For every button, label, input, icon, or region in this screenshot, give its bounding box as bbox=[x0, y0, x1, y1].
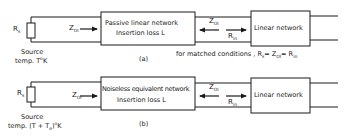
label-sub: OI bbox=[77, 95, 82, 100]
note-text: = R bbox=[281, 50, 293, 58]
input-resistance-label-a: Rin bbox=[228, 33, 237, 41]
output-impedance-label-b: ZOI bbox=[209, 84, 219, 92]
note-text: for matched conditions , R bbox=[176, 50, 262, 58]
passive-network-title: Passive linear network bbox=[105, 20, 178, 27]
figure-label-b: (b) bbox=[139, 121, 148, 128]
source-resistor-b bbox=[27, 87, 35, 102]
insertion-loss-label-b: Insertion loss L bbox=[117, 97, 166, 104]
linear-network-label-a: Linear network bbox=[254, 25, 303, 32]
label-sub: s bbox=[18, 29, 20, 34]
source-resistance-label-b: Rs bbox=[17, 90, 24, 98]
source-resistor-a bbox=[27, 23, 35, 38]
input-impedance-label-a: ZOI bbox=[69, 25, 79, 33]
source-resistance-label-a: Rs bbox=[13, 26, 20, 34]
noise-temperature-diagram: Rs Source temp. ToK ZOI Passive linear n… bbox=[0, 0, 344, 136]
label-sub: in bbox=[233, 102, 237, 107]
source-caption-a-line2: temp. ToK bbox=[15, 57, 47, 65]
label-sub: OI bbox=[214, 21, 219, 26]
label-sub: OI bbox=[214, 87, 219, 92]
label-sub: s bbox=[22, 93, 24, 98]
caption-unit: K bbox=[57, 122, 61, 130]
source-caption-b-line1: Source bbox=[21, 114, 43, 121]
caption-text: temp. T bbox=[15, 57, 40, 65]
note-text: = Z bbox=[264, 50, 276, 58]
noiseless-network-block bbox=[101, 77, 195, 110]
caption-text: temp. (T + T bbox=[8, 122, 49, 130]
label-sub: in bbox=[233, 36, 237, 41]
matched-conditions-note: for matched conditions , Rs= ZOI= Rin bbox=[176, 51, 297, 59]
input-resistance-label-b: Rin bbox=[228, 99, 237, 107]
source-caption-a-line1: Source bbox=[21, 49, 43, 56]
output-impedance-label-a: ZOI bbox=[209, 18, 219, 26]
figure-label-a: (a) bbox=[139, 56, 148, 63]
input-impedance-label-b: ZOI bbox=[72, 92, 82, 100]
note-sub: in bbox=[293, 54, 297, 59]
label-sub: OI bbox=[74, 28, 79, 33]
source-caption-b-line2: temp. (T + Te)oK bbox=[8, 122, 62, 131]
noiseless-network-title: Noiseless equivalent network bbox=[102, 86, 189, 93]
insertion-loss-label-a: Insertion loss L bbox=[116, 30, 165, 37]
linear-network-label-b: Linear network bbox=[254, 92, 303, 99]
caption-unit: K bbox=[43, 57, 47, 65]
